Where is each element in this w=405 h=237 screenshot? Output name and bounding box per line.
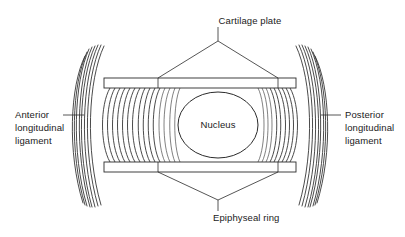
diagram-figure: Cartilage plate Nucleus Epiphyseal ring … bbox=[0, 0, 405, 237]
leader-cartilage-plate bbox=[158, 27, 278, 78]
label-nucleus: Nucleus bbox=[200, 119, 235, 130]
label-posterior-ligament-line3: ligament bbox=[345, 135, 382, 146]
label-posterior-longitudinal-ligament: Posterior longitudinal ligament bbox=[345, 109, 394, 146]
label-posterior-ligament-line2: longitudinal bbox=[345, 122, 394, 133]
leader-epiphyseal-ring bbox=[158, 172, 278, 211]
annulus-lamellae-right bbox=[258, 88, 298, 162]
cartilage-plate-bottom bbox=[104, 162, 296, 172]
posterior-longitudinal-ligament bbox=[296, 45, 328, 207]
label-anterior-ligament-line2: longitudinal bbox=[15, 122, 64, 133]
cartilage-plate-top bbox=[104, 78, 296, 88]
label-anterior-ligament-line1: Anterior bbox=[15, 109, 49, 120]
label-cartilage-plate: Cartilage plate bbox=[219, 15, 282, 26]
intervertebral-disc-diagram: Cartilage plate Nucleus Epiphyseal ring … bbox=[0, 0, 405, 237]
label-epiphyseal-ring: Epiphyseal ring bbox=[213, 212, 279, 223]
label-posterior-ligament-line1: Posterior bbox=[345, 109, 384, 120]
annulus-lamellae-left bbox=[103, 88, 181, 162]
label-anterior-ligament-line3: ligament bbox=[15, 135, 52, 146]
anterior-longitudinal-ligament bbox=[72, 45, 104, 207]
label-anterior-longitudinal-ligament: Anterior longitudinal ligament bbox=[15, 109, 64, 146]
